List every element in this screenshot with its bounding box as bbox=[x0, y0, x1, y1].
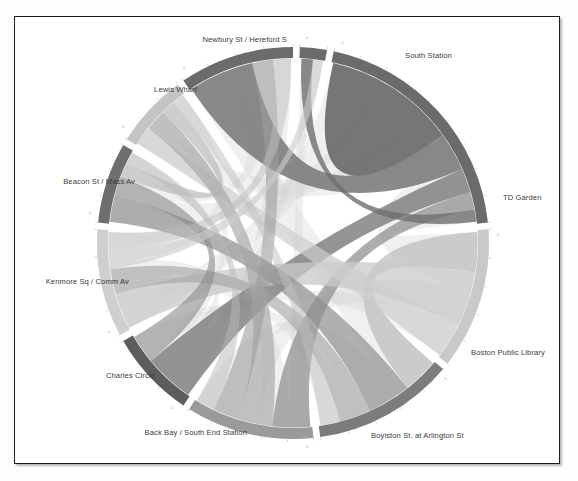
axis-tick bbox=[400, 407, 402, 410]
axis-tick-label: 0 bbox=[108, 330, 110, 334]
node-label-newbury_hereford: Newbury St / Hereford S bbox=[202, 35, 287, 44]
axis-tick bbox=[106, 310, 109, 311]
axis-tick bbox=[327, 47, 328, 50]
chord-ribbons[interactable] bbox=[108, 59, 477, 428]
axis-tick bbox=[121, 144, 124, 146]
axis-tick bbox=[463, 340, 466, 341]
axis-tick bbox=[182, 405, 184, 407]
axis-tick bbox=[443, 369, 445, 371]
axis-tick bbox=[158, 387, 160, 389]
axis-tick bbox=[476, 314, 479, 315]
axis-tick bbox=[207, 63, 208, 66]
axis-tick-label: 0 bbox=[89, 211, 91, 215]
axis-tick bbox=[360, 56, 361, 59]
axis-tick bbox=[139, 117, 141, 119]
axis-tick bbox=[447, 120, 449, 122]
axis-tick bbox=[348, 431, 349, 434]
axis-tick bbox=[182, 78, 184, 80]
axis-tick bbox=[447, 364, 449, 366]
axis-tick-label: 0 bbox=[444, 377, 446, 381]
node-label-south_station: South Station bbox=[405, 51, 452, 60]
axis-tick-label: 0 bbox=[172, 406, 174, 410]
axis-tick bbox=[138, 365, 140, 367]
axis-tick bbox=[423, 390, 425, 392]
axis-tick bbox=[408, 82, 410, 84]
axis-tick bbox=[121, 341, 124, 343]
axis-tick bbox=[156, 98, 158, 100]
axis-tick bbox=[334, 48, 335, 51]
node-label-boston_public_library: Boston Public Library bbox=[471, 348, 545, 357]
node-label-lewis_wharf: Lewis Wharf bbox=[154, 85, 198, 94]
axis-tick bbox=[484, 286, 487, 287]
node-label-boylston_arlington: Boylston St. at Arlington St bbox=[371, 431, 464, 440]
node-label-kenmore_comm: Kenmore Sq / Comm Av bbox=[46, 277, 129, 286]
axis-tick bbox=[429, 100, 431, 102]
figure-frame: 0000000000 South StationTD GardenBoston … bbox=[14, 16, 560, 464]
axis-tick-label: 0 bbox=[342, 41, 344, 45]
axis-tick bbox=[211, 421, 212, 424]
axis-tick-label: 0 bbox=[497, 233, 499, 237]
chord-arc-newbury_hereford[interactable] bbox=[299, 47, 327, 61]
node-label-beacon_mass: Beacon St / Mass Av bbox=[63, 177, 135, 186]
axis-tick bbox=[100, 195, 103, 196]
axis-tick bbox=[188, 409, 190, 412]
axis-tick-label: 0 bbox=[306, 36, 308, 40]
axis-tick bbox=[385, 67, 386, 70]
node-label-td_garden: TD Garden bbox=[503, 193, 541, 202]
node-label-charles_circle: Charles Circle bbox=[106, 371, 155, 380]
figure-page: 0000000000 South StationTD GardenBoston … bbox=[0, 0, 578, 481]
axis-tick bbox=[483, 195, 486, 196]
node-label-back_bay: Back Bay / South End Station bbox=[145, 428, 247, 437]
axis-tick-label: 0 bbox=[306, 445, 308, 449]
axis-tick bbox=[375, 421, 376, 424]
axis-tick bbox=[235, 53, 236, 56]
axis-tick bbox=[108, 168, 111, 169]
chord-diagram[interactable]: 0000000000 South StationTD GardenBoston … bbox=[15, 17, 558, 462]
axis-tick-label: 0 bbox=[183, 66, 185, 70]
axis-tick-label: 0 bbox=[122, 125, 124, 129]
axis-tick bbox=[124, 138, 127, 140]
axis-tick bbox=[463, 144, 466, 146]
axis-tick bbox=[475, 168, 478, 169]
axis-tick bbox=[117, 335, 120, 336]
